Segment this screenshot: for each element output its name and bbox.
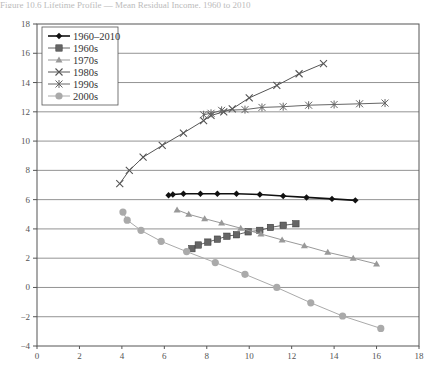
x-tick-label: 8 — [205, 351, 210, 361]
y-tick-label: 10 — [21, 136, 31, 146]
x-axis: 024681012141618 — [35, 346, 424, 361]
x-tick-label: 6 — [162, 351, 167, 361]
x-tick-label: 18 — [415, 351, 425, 361]
series-2000s — [119, 208, 384, 332]
legend-label: 1990s — [73, 79, 98, 90]
y-tick-label: −2 — [20, 312, 30, 322]
series-1960-2010 — [165, 191, 358, 204]
line-chart: −4−2024681012141618 024681012141618 1960… — [0, 0, 441, 379]
y-tick-label: 2 — [26, 253, 31, 263]
y-tick-label: 4 — [26, 224, 31, 234]
legend-label: 1970s — [73, 55, 98, 66]
y-tick-label: 14 — [21, 78, 31, 88]
series-1980s — [116, 60, 327, 187]
x-tick-label: 12 — [287, 351, 296, 361]
series-1990s — [200, 99, 388, 119]
y-tick-label: 18 — [21, 19, 31, 29]
legend-label: 1960s — [73, 43, 98, 54]
y-axis: −4−2024681012141618 — [20, 19, 37, 351]
x-tick-label: 2 — [77, 351, 82, 361]
legend: 1960–20101960s1970s1980s1990s2000s — [42, 27, 120, 105]
y-tick-label: 12 — [21, 107, 30, 117]
legend-label: 1980s — [73, 67, 98, 78]
x-tick-label: 14 — [330, 351, 340, 361]
legend-label: 2000s — [73, 91, 98, 102]
x-tick-label: 0 — [35, 351, 40, 361]
x-tick-label: 10 — [245, 351, 255, 361]
y-tick-label: 16 — [21, 48, 31, 58]
x-tick-label: 16 — [372, 351, 382, 361]
legend-label: 1960–2010 — [73, 31, 120, 42]
series-1970s — [174, 206, 380, 266]
y-tick-label: 8 — [26, 165, 31, 175]
y-tick-label: −4 — [20, 341, 30, 351]
x-tick-label: 4 — [120, 351, 125, 361]
series-layer — [116, 60, 388, 332]
y-tick-label: 6 — [26, 195, 31, 205]
y-tick-label: 0 — [26, 282, 31, 292]
series-1960s — [189, 221, 299, 252]
